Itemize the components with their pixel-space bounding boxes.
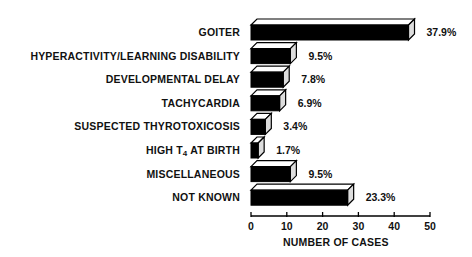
category-label: GOITER bbox=[199, 26, 240, 38]
bar-chart: GOITERHYPERACTIVITY/LEARNING DISABILITYD… bbox=[0, 0, 472, 257]
bar bbox=[251, 96, 280, 111]
bar bbox=[251, 167, 290, 182]
x-axis-title: NUMBER OF CASES bbox=[283, 236, 389, 248]
bar bbox=[251, 49, 290, 64]
percent-label: 7.8% bbox=[301, 73, 325, 85]
x-tick-label: 30 bbox=[353, 220, 365, 232]
bar bbox=[251, 190, 348, 205]
bar bbox=[251, 72, 283, 87]
percent-label: 1.7% bbox=[276, 144, 300, 156]
category-label: SUSPECTED THYROTOXICOSIS bbox=[74, 120, 240, 132]
x-tick-label: 50 bbox=[424, 220, 436, 232]
bar bbox=[251, 143, 258, 158]
category-label: HYPERACTIVITY/LEARNING DISABILITY bbox=[30, 50, 240, 62]
category-label: NOT KNOWN bbox=[172, 191, 240, 203]
percent-label: 3.4% bbox=[283, 120, 307, 132]
x-tick-label: 20 bbox=[317, 220, 329, 232]
category-label: TACHYCARDIA bbox=[162, 97, 240, 109]
x-tick-label: 0 bbox=[248, 220, 254, 232]
bar-top-face bbox=[251, 161, 296, 167]
bar bbox=[251, 25, 409, 40]
bar-top-face bbox=[251, 43, 296, 49]
bar-top-face bbox=[251, 184, 354, 190]
percent-label: 9.5% bbox=[308, 168, 332, 180]
category-label: MISCELLANEOUS bbox=[146, 168, 240, 180]
x-tick-label: 40 bbox=[388, 220, 400, 232]
category-label: DEVELOPMENTAL DELAY bbox=[106, 73, 240, 85]
x-tick-label: 10 bbox=[281, 220, 293, 232]
bar-top-face bbox=[251, 19, 415, 25]
bar bbox=[251, 119, 265, 134]
percent-label: 6.9% bbox=[298, 97, 322, 109]
percent-label: 37.9% bbox=[427, 26, 457, 38]
category-label: HIGH T4 AT BIRTH bbox=[146, 144, 240, 158]
percent-label: 23.3% bbox=[366, 191, 396, 203]
percent-label: 9.5% bbox=[308, 50, 332, 62]
